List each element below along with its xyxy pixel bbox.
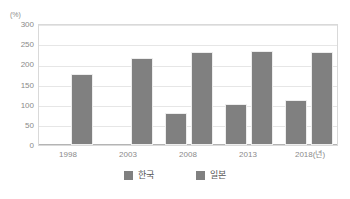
x-axis-label-2013: 2013 bbox=[218, 150, 278, 159]
bar-group-1998 bbox=[39, 25, 99, 145]
bar-japan-2003 bbox=[131, 58, 153, 145]
y-axis-tick-250: 250 bbox=[6, 40, 34, 49]
x-axis-label-2003: 2003 bbox=[98, 150, 158, 159]
bar-group-2003 bbox=[99, 25, 159, 145]
bar-japan-2008 bbox=[191, 52, 213, 145]
legend-swatch-icon-japan bbox=[196, 171, 205, 180]
bars-layer bbox=[39, 25, 337, 145]
y-axis-tick-50: 50 bbox=[6, 121, 34, 130]
bar-japan-1998 bbox=[71, 74, 93, 145]
y-axis-unit-label: (%) bbox=[10, 11, 21, 19]
y-axis-tick-150: 150 bbox=[6, 81, 34, 90]
bar-group-2018 bbox=[279, 25, 339, 145]
legend-item-korea: 한국 bbox=[124, 170, 154, 180]
chart-legend: 한국 일본 bbox=[0, 170, 350, 180]
legend-swatch-icon-korea bbox=[124, 171, 133, 180]
y-axis-tick-100: 100 bbox=[6, 101, 34, 110]
legend-label-japan: 일본 bbox=[210, 170, 226, 180]
legend-item-japan: 일본 bbox=[196, 170, 226, 180]
x-axis-label-1998: 1998 bbox=[38, 150, 98, 159]
bar-japan-2013 bbox=[251, 51, 273, 145]
y-axis-tick-0: 0 bbox=[6, 141, 34, 150]
y-axis-tick-300: 300 bbox=[6, 20, 34, 29]
bar-korea-2013 bbox=[225, 104, 247, 145]
y-axis-tick-200: 200 bbox=[6, 60, 34, 69]
x-axis-label-2008: 2008 bbox=[158, 150, 218, 159]
bar-korea-2008 bbox=[165, 113, 187, 145]
plot-area bbox=[38, 24, 338, 146]
bar-group-2008 bbox=[159, 25, 219, 145]
x-axis-label-2018: 2018(년) bbox=[278, 150, 342, 159]
legend-label-korea: 한국 bbox=[138, 170, 154, 180]
bar-korea-2018 bbox=[285, 100, 307, 145]
bar-chart: (%) 300 250 200 150 100 50 0 bbox=[0, 0, 350, 199]
bar-japan-2018 bbox=[311, 52, 333, 145]
bar-group-2013 bbox=[219, 25, 279, 145]
